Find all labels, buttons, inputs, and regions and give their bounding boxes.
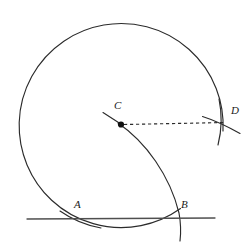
geometry-figure: A B C D [0,0,252,247]
label-b: B [181,199,188,210]
radius-dashed-segment-cd [124,123,226,125]
tangent-line-ab [27,218,215,219]
tick-mark-at-c [103,113,120,124]
label-d: D [231,105,239,116]
geometry-canvas [0,0,252,247]
center-point-c [118,121,124,127]
label-c: C [114,100,121,111]
label-a: A [74,199,81,210]
